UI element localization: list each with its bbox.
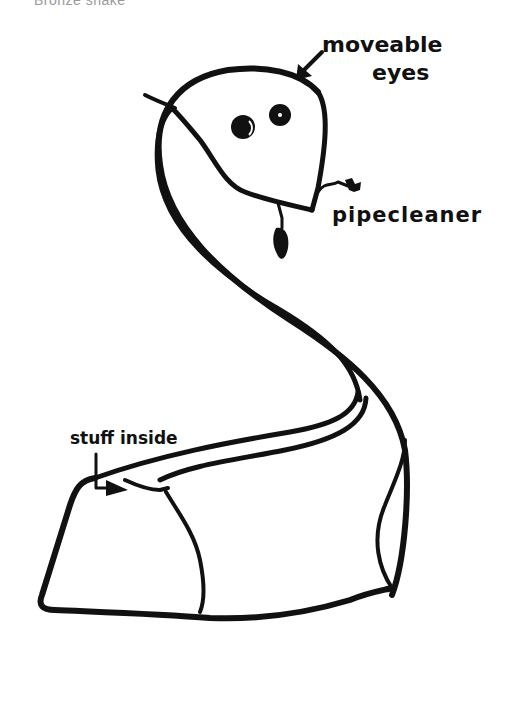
snake-sock-puppet-drawing: moveable eyes pipecleaner stuff inside — [0, 0, 532, 724]
label-pipecleaner: pipecleaner — [332, 203, 482, 227]
label-eyes: eyes — [372, 60, 429, 85]
arrow-icon — [296, 52, 322, 80]
label-stuff-inside: stuff inside — [70, 428, 178, 448]
moveable-eyes — [231, 104, 291, 139]
snake-body-outline — [145, 68, 407, 595]
snake-base-outline — [41, 392, 405, 618]
label-moveable: moveable — [322, 32, 442, 57]
